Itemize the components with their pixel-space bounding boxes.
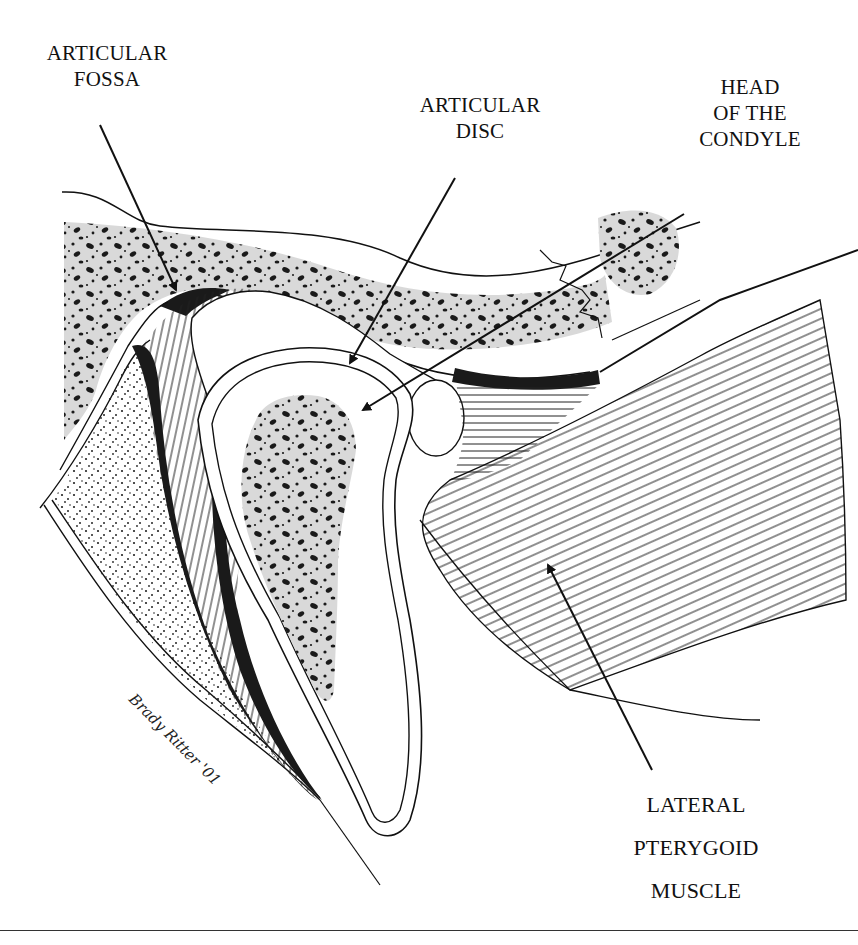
zygomatic-bone xyxy=(598,211,679,296)
disc-anterior-band xyxy=(408,380,464,456)
label-articular-fossa: ARTICULAR FOSSA xyxy=(22,40,192,92)
lateral-pterygoid-muscle xyxy=(423,300,847,690)
label-head-of-condyle: HEAD OF THE CONDYLE xyxy=(665,74,835,152)
label-articular-disc: ARTICULAR DISC xyxy=(395,92,565,144)
label-lateral-pterygoid-muscle: LATERAL PTERYGOID MUSCLE xyxy=(606,783,786,912)
bottom-divider xyxy=(0,930,858,931)
tmj-diagram: ARTICULAR FOSSA ARTICULAR DISC HEAD OF T… xyxy=(0,0,858,945)
